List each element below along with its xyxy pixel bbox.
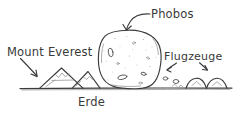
label-mount-everest: Mount Everest [7,45,93,59]
airplane-hill-2 [207,78,228,88]
airplane-hills [163,77,227,88]
arrow-flugzeuge-left [167,63,177,72]
diagram-canvas: Phobos Mount Everest Flugzeuge Erde [0,0,244,116]
airplane-hill-1 [186,78,207,88]
label-phobos: Phobos [151,7,194,21]
label-erde: Erde [78,95,105,109]
arrow-mount-everest [21,59,38,77]
sketch-svg: Phobos Mount Everest Flugzeuge Erde [0,0,244,116]
arrow-flugzeuge-right [200,63,208,70]
phobos-blob [98,30,161,89]
arrow-phobos [123,14,150,30]
label-flugzeuge: Flugzeuge [164,50,222,63]
mountain-range [40,68,101,88]
